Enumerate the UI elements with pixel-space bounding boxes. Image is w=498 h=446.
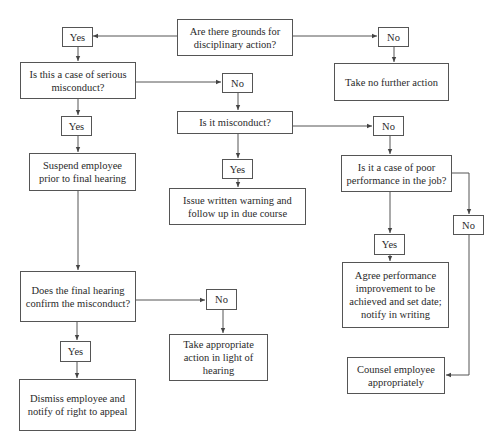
label-no-grounds: No bbox=[378, 27, 409, 47]
label-yes-grounds: Yes bbox=[62, 27, 93, 47]
action-agree-performance-improvement: Agree performance improvement to be achi… bbox=[342, 262, 449, 328]
label-yes-performance: Yes bbox=[374, 234, 405, 255]
decision-poor-performance: Is it a case of poor performance in the … bbox=[341, 155, 452, 192]
action-take-appropriate-action: Take appropriate action in light of hear… bbox=[169, 334, 268, 381]
action-suspend-employee: Suspend employee prior to final hearing bbox=[29, 153, 136, 191]
decision-serious-misconduct: Is this a case of serious misconduct? bbox=[20, 62, 136, 99]
action-take-no-further-action: Take no further action bbox=[334, 63, 449, 101]
action-counsel-employee: Counsel employee appropriately bbox=[347, 357, 445, 394]
decision-is-misconduct: Is it misconduct? bbox=[177, 111, 293, 134]
label-yes-hearing: Yes bbox=[60, 341, 91, 362]
label-no-performance: No bbox=[453, 215, 484, 235]
label-no-hearing: No bbox=[206, 289, 237, 310]
action-issue-written-warning: Issue written warning and follow up in d… bbox=[169, 188, 306, 225]
decision-grounds-for-action: Are there grounds for disciplinary actio… bbox=[177, 19, 293, 56]
action-dismiss-employee: Dismiss employee and notify of right to … bbox=[19, 379, 136, 431]
label-no-serious: No bbox=[222, 73, 253, 93]
label-yes-misconduct: Yes bbox=[222, 159, 253, 179]
decision-final-hearing-confirms: Does the final hearing confirm the misco… bbox=[20, 271, 136, 322]
label-yes-serious: Yes bbox=[61, 116, 92, 136]
label-no-misconduct: No bbox=[373, 116, 404, 136]
flowchart-canvas: Are there grounds for disciplinary actio… bbox=[0, 0, 498, 446]
